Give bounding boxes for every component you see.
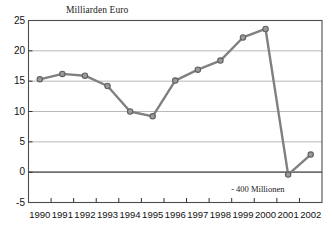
y-tick-label: -5 <box>3 198 25 208</box>
data-point: 1992: 15.9 <box>82 73 87 78</box>
data-point: 1997: 16.9 <box>195 67 200 72</box>
chart-annotation: - 400 Millionen <box>231 184 284 194</box>
y-tick-label: 5 <box>3 137 25 147</box>
data-point: 1996: 15.1 <box>173 78 178 83</box>
chart-plot-area: 1990: 15.31991: 16.21992: 15.91993: 14.2… <box>0 0 333 228</box>
data-point: 1998: 18.4 <box>218 58 223 63</box>
data-point: 2001: -0.4 <box>285 172 290 177</box>
y-tick-label: 20 <box>3 46 25 56</box>
data-point: 2002: 2.9 <box>308 152 313 157</box>
data-point: 1991: 16.2 <box>60 71 65 76</box>
x-tick-label: 2002 <box>294 209 328 220</box>
y-tick-label: 15 <box>3 76 25 86</box>
y-axis-labels: 2520151050-5 <box>0 0 25 228</box>
data-point: 1993: 14.2 <box>105 83 110 88</box>
y-tick-label: 10 <box>3 107 25 117</box>
data-point: 1995: 9.2 <box>150 114 155 119</box>
chart-axis-title: Milliarden Euro <box>66 5 128 15</box>
data-point: 1994: 10 <box>127 109 132 114</box>
y-tick-label: 25 <box>3 16 25 26</box>
data-point: 1990: 15.3 <box>37 77 42 82</box>
chart-container: Milliarden Euro 2520151050-5 1990: 15.31… <box>0 0 333 228</box>
data-point: 2000: 23.6 <box>263 26 268 31</box>
data-point: 1999: 22.2 <box>240 35 245 40</box>
y-tick-label: 0 <box>3 167 25 177</box>
